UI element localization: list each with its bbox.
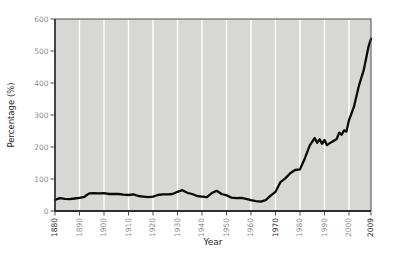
y-axis-title: Percentage (%)	[6, 82, 16, 147]
x-tick-label-1900: 1900	[99, 218, 108, 237]
x-tick-label-1940: 1940	[197, 218, 206, 237]
x-tick-label-1950: 1950	[222, 218, 231, 237]
x-tick-label-2009: 2009	[366, 218, 375, 237]
x-tick-label-1930: 1930	[173, 218, 182, 237]
y-tick-label-300: 300	[34, 111, 49, 120]
x-tick-label-1980: 1980	[295, 218, 304, 237]
x-tick-label-1960: 1960	[246, 218, 255, 237]
x-tick-label-1890: 1890	[75, 218, 84, 237]
x-tick-label-1880: 1880	[50, 218, 59, 237]
y-tick-label-0: 0	[44, 207, 49, 216]
x-axis-title: Year	[202, 237, 222, 247]
y-tick-label-500: 500	[34, 47, 49, 56]
y-tick-label-100: 100	[34, 175, 49, 184]
x-tick-label-2000: 2000	[344, 218, 353, 237]
chart-canvas: 0100200300400500600188018901900191019201…	[0, 0, 394, 258]
line-chart: 0100200300400500600188018901900191019201…	[0, 0, 394, 258]
y-tick-label-600: 600	[34, 15, 49, 24]
y-tick-label-400: 400	[34, 79, 49, 88]
x-tick-label-1910: 1910	[124, 218, 133, 237]
y-tick-label-200: 200	[34, 143, 49, 152]
x-tick-label-1990: 1990	[320, 218, 329, 237]
x-tick-label-1920: 1920	[148, 218, 157, 237]
x-tick-label-1970: 1970	[271, 218, 280, 237]
plot-area	[55, 19, 371, 211]
